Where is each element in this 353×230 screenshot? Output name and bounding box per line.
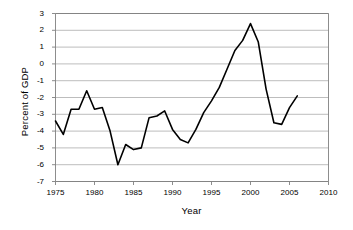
y-tick-label: 1 bbox=[20, 42, 44, 51]
chart-container: Percent of GDP Year 3210-1-2-3-4-5-6-7 1… bbox=[0, 0, 353, 230]
y-tick-label: 0 bbox=[20, 59, 44, 68]
y-tick-label: -5 bbox=[20, 143, 44, 152]
x-tick-label: 1985 bbox=[114, 188, 154, 197]
series-percent-of-gdp bbox=[56, 24, 298, 165]
y-tick-label: -2 bbox=[20, 93, 44, 102]
x-tick-label: 1990 bbox=[153, 188, 193, 197]
x-tick-label: 1980 bbox=[75, 188, 115, 197]
data-series-line bbox=[56, 24, 298, 165]
x-tick-label: 2000 bbox=[231, 188, 271, 197]
grid-lines bbox=[56, 14, 329, 182]
y-tick-label: 3 bbox=[20, 9, 44, 18]
y-tick-label: -1 bbox=[20, 76, 44, 85]
y-tick-label: -3 bbox=[20, 109, 44, 118]
y-tick-label: -4 bbox=[20, 126, 44, 135]
y-tick-label: -7 bbox=[20, 177, 44, 186]
x-tick-label: 1995 bbox=[192, 188, 232, 197]
tick-marks bbox=[52, 14, 329, 186]
y-tick-label: -6 bbox=[20, 160, 44, 169]
x-tick-label: 1975 bbox=[36, 188, 76, 197]
x-tick-label: 2005 bbox=[270, 188, 310, 197]
y-tick-label: 2 bbox=[20, 25, 44, 34]
x-tick-label: 2010 bbox=[309, 188, 349, 197]
